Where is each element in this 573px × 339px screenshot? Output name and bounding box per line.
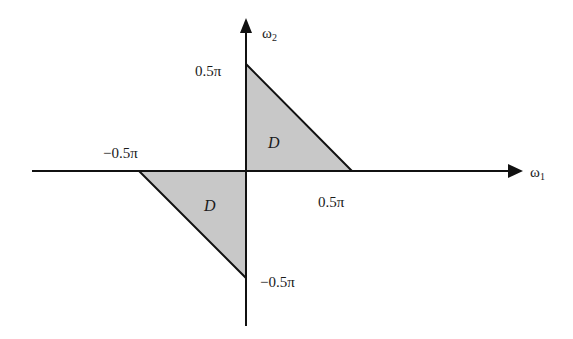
- region-d-lower: [139, 171, 246, 278]
- horizontal-axis-label: ω1: [530, 165, 545, 182]
- vertical-axis-symbol: ω: [262, 25, 272, 41]
- region-d-upper: [246, 64, 352, 171]
- horizontal-axis-subscript: 1: [540, 171, 545, 182]
- tick-label-top: 0.5π: [195, 64, 221, 79]
- horizontal-axis-symbol: ω: [530, 164, 540, 180]
- region-label-lower: D: [204, 198, 216, 214]
- tick-label-right: 0.5π: [318, 195, 344, 210]
- tick-label-bottom: −0.5π: [260, 275, 295, 290]
- vertical-axis-arrow-icon: [240, 18, 252, 33]
- horizontal-axis-arrow-icon: [508, 164, 523, 178]
- vertical-axis-subscript: 2: [272, 32, 277, 43]
- tick-label-left: −0.5π: [103, 146, 138, 161]
- region-label-upper: D: [268, 135, 280, 151]
- vertical-axis-label: ω2: [262, 26, 277, 43]
